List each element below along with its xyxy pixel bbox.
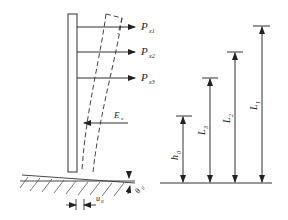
base-displacement-dimension <box>66 199 96 210</box>
label-u0: u <box>96 194 100 203</box>
label-px1-sub: x1 <box>148 28 155 34</box>
label-ex: E <box>113 110 120 120</box>
pile-column <box>68 14 77 172</box>
label-theta0-sub: 0 <box>140 185 146 190</box>
label-ex-sub: x <box>120 116 124 121</box>
force-arrows <box>77 27 135 78</box>
label-h0-sub: 0 <box>176 151 182 154</box>
label-l1-sub: 1 <box>255 101 261 104</box>
ground-hatching <box>20 177 124 196</box>
label-px2-sub: x2 <box>148 53 155 59</box>
label-px3-sub: x3 <box>148 79 155 85</box>
label-l2: L <box>221 117 232 124</box>
label-px2: P <box>140 45 148 57</box>
pile-load-diagram: P x1 P x2 P x3 E x u 0 θ 0 <box>0 0 288 220</box>
label-u0-sub: 0 <box>101 199 104 204</box>
label-l3: L <box>196 129 207 136</box>
label-px3: P <box>140 71 148 83</box>
label-h0: h <box>169 155 180 160</box>
deflected-pile <box>82 14 122 172</box>
force-labels: P x1 P x2 P x3 <box>140 20 155 85</box>
label-l3-sub: 3 <box>203 126 209 130</box>
label-l2-sub: 2 <box>228 114 234 117</box>
label-l1: L <box>248 104 259 111</box>
label-px1: P <box>140 20 148 32</box>
